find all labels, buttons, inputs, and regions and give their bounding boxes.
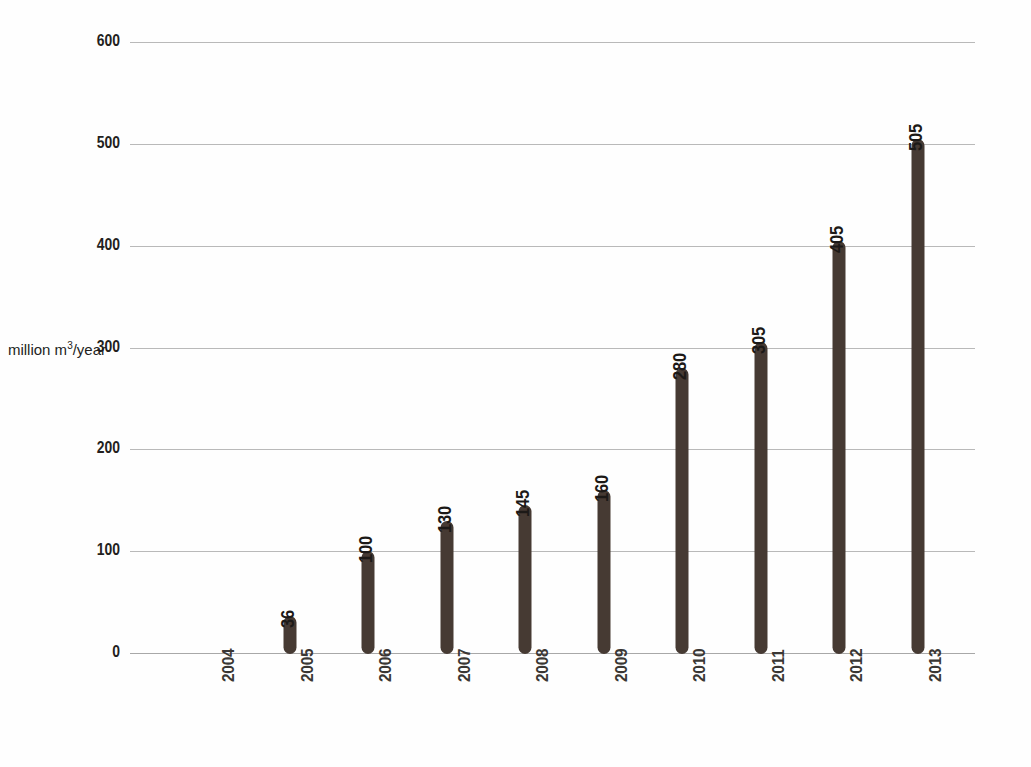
bar-2010[interactable] <box>676 368 689 654</box>
value-label-2013: 505 <box>906 124 927 151</box>
bar-2013[interactable] <box>911 139 924 654</box>
gridline-300 <box>130 348 975 349</box>
bar-2008[interactable] <box>519 505 532 654</box>
value-label-2009: 160 <box>592 475 613 502</box>
x-tick-label-2013: 2013 <box>926 649 946 682</box>
y-tick-label-400: 400 <box>69 235 120 255</box>
x-tick-label-2009: 2009 <box>612 649 632 682</box>
x-tick-label-2011: 2011 <box>769 650 789 682</box>
x-tick-label-2008: 2008 <box>533 649 553 682</box>
x-tick-label-2004: 2004 <box>219 649 239 682</box>
gridline-600 <box>130 42 975 43</box>
y-axis-title-prefix: million m <box>8 341 67 358</box>
x-tick-label-2012: 2012 <box>847 649 867 682</box>
y-tick-label-500: 500 <box>69 133 120 153</box>
y-tick-label-200: 200 <box>69 438 120 458</box>
x-tick-label-2006: 2006 <box>376 649 396 682</box>
value-label-2006: 100 <box>356 536 377 563</box>
gridline-500 <box>130 144 975 145</box>
value-label-2011: 305 <box>749 327 770 354</box>
gridline-200 <box>130 449 975 450</box>
bar-2011[interactable] <box>754 342 767 654</box>
y-tick-label-0: 0 <box>69 642 120 662</box>
gridline-400 <box>130 246 975 247</box>
x-tick-label-2005: 2005 <box>298 649 318 682</box>
value-label-2010: 280 <box>670 353 691 380</box>
y-tick-label-600: 600 <box>69 31 120 51</box>
bar-2012[interactable] <box>833 241 846 654</box>
value-label-2007: 130 <box>435 506 456 533</box>
bar-2009[interactable] <box>597 490 610 654</box>
bar-chart: million m3/year 0100200300400500600 3610… <box>0 0 1031 767</box>
y-tick-label-300: 300 <box>69 337 120 357</box>
plot-area: 36100130145160280305405505 <box>130 42 975 653</box>
value-label-2005: 36 <box>278 610 299 628</box>
value-label-2008: 145 <box>513 490 534 517</box>
gridline-100 <box>130 551 975 552</box>
bar-2007[interactable] <box>440 521 453 654</box>
y-tick-label-100: 100 <box>69 540 120 560</box>
x-tick-label-2007: 2007 <box>455 649 475 682</box>
bar-2006[interactable] <box>362 551 375 654</box>
x-tick-label-2010: 2010 <box>690 649 710 682</box>
value-label-2012: 405 <box>827 225 848 252</box>
